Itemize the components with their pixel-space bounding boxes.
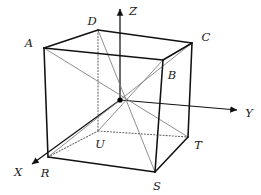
axis-labels-group: Z Y X [13,4,254,179]
vertex-label-t: T [194,138,203,152]
diagonal-b-u [98,60,163,131]
vertex-label-b: B [167,68,176,82]
hidden-edge-u-t [98,131,188,137]
vertex-label-s: S [153,179,161,193]
edge-b-s [155,60,163,172]
edge-r-s [48,157,155,172]
edge-c-t [188,43,192,137]
diagonal-d-s [98,30,155,172]
edge-b-a [44,48,163,60]
vertex-label-u: U [95,137,105,151]
edge-a-r [44,48,48,157]
cube-diagram-svg: A D C B R U T S Z Y X [0,0,261,195]
axis-label-y: Y [245,106,254,120]
edge-c-b [163,43,192,60]
vertex-label-c: C [202,30,211,44]
vertex-label-r: R [40,166,50,180]
vertex-label-d: D [86,14,96,28]
cube-diagram-figure: A D C B R U T S Z Y X [0,0,261,195]
cube-center-point [117,97,122,102]
edge-a-d [44,30,98,48]
axis-label-z: Z [128,4,138,18]
edge-s-t [155,137,188,172]
axis-label-x: X [13,165,23,179]
edge-d-c [98,30,192,43]
axis-line-x [32,100,120,164]
axis-line-y [120,100,237,110]
diagonal-a-t [44,48,188,137]
vertex-label-a: A [24,36,33,50]
